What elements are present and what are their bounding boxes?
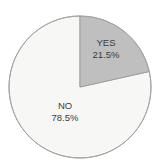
slice-label-yes: YES 21.5% (78, 37, 134, 60)
slice-label-yes-percent: 21.5% (78, 49, 134, 61)
slice-label-no: NO 78.5% (37, 100, 93, 123)
slice-label-yes-name: YES (78, 37, 134, 49)
slice-label-no-name: NO (37, 100, 93, 112)
pie-chart-graphic (0, 0, 164, 166)
pie-chart-figure: · · · · · · · · · YES 21.5% NO 78.5% (0, 0, 164, 166)
slice-label-no-percent: 78.5% (37, 112, 93, 124)
